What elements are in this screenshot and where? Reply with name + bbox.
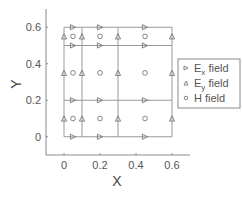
y-tick-label: 0	[35, 131, 41, 143]
legend: Ex fieldEy fieldH field	[178, 59, 240, 108]
x-axis-ticks: 00.20.40.6	[61, 153, 180, 171]
y-axis-label: Y	[8, 79, 24, 89]
circle-marker-icon	[71, 116, 76, 121]
x-tick-label: 0	[61, 159, 67, 171]
circle-marker-icon	[98, 34, 103, 39]
circle-marker-icon	[71, 71, 76, 76]
circle-marker-icon	[98, 116, 103, 121]
x-tick-label: 0.4	[128, 159, 143, 171]
x-axis-label: X	[112, 173, 122, 189]
x-tick-label: 0.2	[92, 159, 107, 171]
circle-marker-icon	[71, 34, 76, 39]
circle-marker-icon	[143, 116, 148, 121]
yee-grid-chart: 00.20.40.6 00.20.40.6 X Y Ex fieldEy fie…	[0, 0, 242, 197]
circle-marker-icon	[143, 71, 148, 76]
circle-marker-icon	[98, 71, 103, 76]
x-tick-label: 0.6	[164, 159, 179, 171]
axes: 00.20.40.6 00.20.40.6 X Y	[8, 9, 190, 189]
y-axis-ticks: 00.20.40.6	[26, 21, 48, 143]
legend-label: H field	[194, 92, 225, 104]
y-tick-label: 0.2	[26, 94, 41, 106]
circle-marker-icon	[143, 34, 148, 39]
y-tick-label: 0.4	[26, 58, 41, 70]
y-tick-label: 0.6	[26, 21, 41, 33]
